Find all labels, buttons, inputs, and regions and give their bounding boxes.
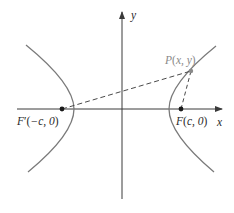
focus-left-close-paren: ) [55, 115, 59, 128]
focus-left-dot [60, 107, 65, 112]
dashed-segment-fprime-p [62, 71, 191, 109]
dashed-segment-f-p [181, 71, 191, 109]
focus-right-label: F(c, 0) [175, 115, 207, 128]
focus-right-close-paren: ) [203, 115, 207, 128]
point-p-label: P(x, y) [164, 54, 196, 67]
point-p-dot [189, 69, 193, 73]
point-p-coords: x, y [175, 54, 193, 67]
x-axis-label: x [216, 116, 223, 128]
focus-left-label: F′(−c, 0) [16, 115, 59, 128]
focus-right-dot [179, 107, 184, 112]
focus-right-coords: c, 0 [187, 115, 204, 128]
hyperbola-diagram: y x F′(−c, 0) F(c, 0) P(x, y) [0, 0, 234, 213]
y-axis-label: y [130, 9, 137, 22]
point-p-close-paren: ) [192, 54, 196, 67]
focus-left-coords: −c, 0 [30, 115, 55, 128]
point-p-name: P [164, 54, 172, 66]
